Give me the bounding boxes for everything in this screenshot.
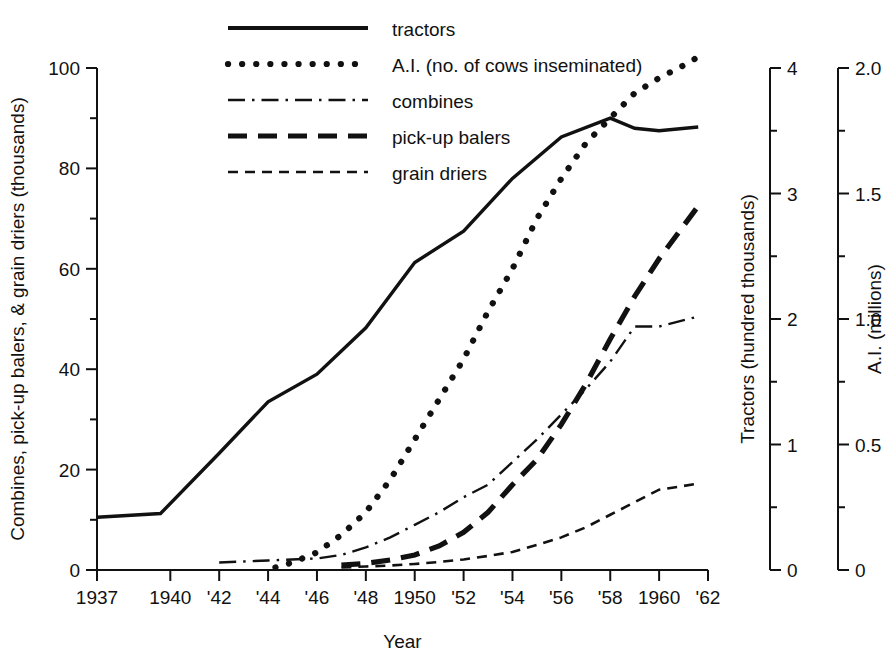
tractors-axis-tick-label: 4 bbox=[787, 58, 798, 79]
x-axis-tick-label: '62 bbox=[696, 587, 721, 608]
legend-label-tractors: tractors bbox=[392, 19, 455, 40]
x-axis-tick-label: 1960 bbox=[638, 587, 680, 608]
left-axis-tick-label: 60 bbox=[59, 259, 80, 280]
series-line-balers bbox=[341, 206, 698, 565]
series-line-grain-driers bbox=[341, 484, 698, 568]
left-axis-tick-label: 40 bbox=[59, 359, 80, 380]
legend-label-balers: pick-up balers bbox=[392, 127, 510, 148]
legend-label-driers: grain driers bbox=[392, 163, 487, 184]
x-axis-tick-label: '52 bbox=[451, 587, 476, 608]
left-axis-tick-label: 100 bbox=[48, 58, 80, 79]
x-axis-tick-label: '56 bbox=[549, 587, 574, 608]
left-axis-tick-label: 0 bbox=[69, 560, 80, 581]
series-line-combines bbox=[219, 316, 698, 562]
left-axis-title: Combines, pick-up balers, & grain driers… bbox=[7, 97, 28, 541]
x-axis-tick-label: '44 bbox=[256, 587, 281, 608]
tractors-axis-tick-label: 1 bbox=[787, 435, 798, 456]
left-axis-tick-label: 20 bbox=[59, 460, 80, 481]
legend-label-combines: combines bbox=[392, 91, 473, 112]
x-axis-tick-label: 1937 bbox=[76, 587, 118, 608]
x-axis-title: Year bbox=[383, 631, 422, 652]
x-axis-tick-label: 1950 bbox=[394, 587, 436, 608]
x-axis-tick-label: '58 bbox=[598, 587, 623, 608]
chart-canvas: 020406080100Combines, pick-up balers, & … bbox=[0, 0, 893, 659]
ai-axis-tick-label: 0.5 bbox=[855, 435, 881, 456]
legend-label-ai: A.I. (no. of cows inseminated) bbox=[392, 55, 642, 76]
ai-axis-tick-label: 2.0 bbox=[855, 58, 881, 79]
x-axis-tick-label: 1940 bbox=[149, 587, 191, 608]
x-axis-tick-label: '54 bbox=[500, 587, 525, 608]
ai-axis-tick-label: 0 bbox=[855, 560, 866, 581]
x-axis-tick-label: '48 bbox=[353, 587, 378, 608]
chart-figure: 020406080100Combines, pick-up balers, & … bbox=[0, 0, 893, 659]
tractors-axis-tick-label: 3 bbox=[787, 184, 798, 205]
tractors-axis-title: Tractors (hundred thousands) bbox=[737, 194, 758, 444]
ai-axis-tick-label: 1.5 bbox=[855, 184, 881, 205]
tractors-axis-tick-label: 0 bbox=[787, 560, 798, 581]
tractors-axis-tick-label: 2 bbox=[787, 309, 798, 330]
left-axis-tick-label: 80 bbox=[59, 158, 80, 179]
ai-axis-title: A.I. (millions) bbox=[864, 264, 885, 374]
x-axis-tick-label: '42 bbox=[207, 587, 232, 608]
x-axis-tick-label: '46 bbox=[305, 587, 330, 608]
